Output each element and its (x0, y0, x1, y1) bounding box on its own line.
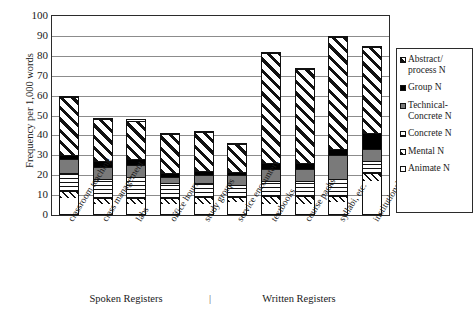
caption-spoken: Spoken Registers (51, 293, 201, 304)
legend-swatch-icon (400, 149, 406, 155)
legend-label: Abstract/process N (408, 54, 446, 75)
bar-segment (60, 173, 78, 191)
bar-segment (94, 119, 112, 162)
bar-segment (363, 173, 381, 181)
caption-divider: | (201, 293, 219, 304)
legend-label: Animate N (408, 163, 450, 174)
legend-label: Concrete N (408, 128, 452, 139)
y-tick-0: 0 (43, 209, 49, 220)
legend-swatch-icon (400, 131, 406, 137)
legend-item[interactable]: Animate N (400, 163, 470, 174)
bar-segment (329, 37, 347, 149)
bar-segment (60, 97, 78, 156)
bar-group (52, 16, 389, 215)
y-tick-40: 40 (37, 129, 48, 140)
bar-segment (60, 159, 78, 173)
bar-slot (52, 16, 86, 215)
register-caption: Spoken Registers | Written Registers (51, 293, 390, 304)
bar-textbooks[interactable] (261, 52, 281, 215)
y-axis-tick-labels: 0102030405060708090100 (16, 0, 48, 230)
legend-label: Technical-Concrete N (408, 100, 452, 121)
legend-swatch-icon (400, 85, 406, 91)
bar-segment (296, 169, 314, 181)
bar-segment (363, 149, 381, 161)
bar-segment (127, 121, 145, 160)
bar-segment (363, 133, 381, 149)
legend-swatch-icon (400, 57, 406, 63)
legend-item[interactable]: Concrete N (400, 128, 470, 139)
bar-segment (363, 161, 381, 173)
bar-segment (296, 69, 314, 163)
bar-slot (153, 16, 187, 215)
chart-figure: Frequency per 1,000 words 01020304050607… (0, 0, 474, 315)
legend-item[interactable]: Abstract/process N (400, 54, 470, 75)
legend: Abstract/process NGroup NTechnical-Concr… (396, 48, 473, 213)
bar-segment (363, 47, 381, 134)
y-tick-100: 100 (32, 10, 49, 21)
bar-segment (161, 134, 179, 173)
legend-item[interactable]: Group N (400, 82, 470, 93)
y-tick-80: 80 (37, 49, 48, 60)
y-tick-70: 70 (37, 69, 48, 80)
bar-slot (288, 16, 322, 215)
legend-label: Mental N (408, 146, 444, 157)
bar-segment (228, 144, 246, 171)
y-tick-90: 90 (37, 29, 48, 40)
y-tick-60: 60 (37, 89, 48, 100)
y-tick-10: 10 (37, 189, 48, 200)
y-tick-50: 50 (37, 109, 48, 120)
bar-segment (329, 155, 347, 179)
bar-segment (195, 132, 213, 171)
legend-swatch-icon (400, 166, 406, 172)
bar-classroom-teaching[interactable] (59, 96, 79, 215)
legend-item[interactable]: Technical-Concrete N (400, 100, 470, 121)
caption-written: Written Registers (219, 293, 379, 304)
bar-segment (161, 183, 179, 199)
bar-segment (296, 181, 314, 197)
legend-swatch-icon (400, 103, 406, 109)
bar-segment (262, 53, 280, 163)
y-tick-20: 20 (37, 169, 48, 180)
legend-item[interactable]: Mental N (400, 146, 470, 157)
y-tick-30: 30 (37, 149, 48, 160)
bar-course-packs[interactable] (295, 68, 315, 215)
bar-segment (60, 191, 78, 199)
x-axis-tick-labels: classroom teachingclass managementlabsof… (51, 216, 390, 288)
legend-label: Group N (408, 82, 442, 93)
